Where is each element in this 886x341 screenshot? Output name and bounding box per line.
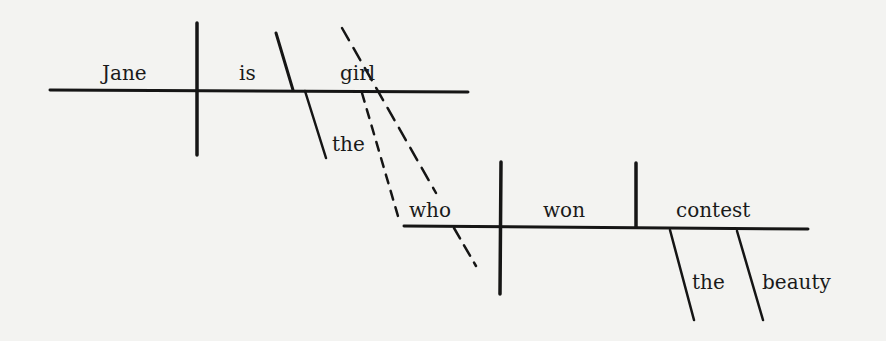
- dashed-connector-outer: [342, 28, 436, 193]
- relative-baseline: [404, 226, 808, 229]
- dashed-connector-inner: [362, 93, 400, 223]
- word-relative-verb-won: won: [543, 200, 585, 220]
- modifier-line-beauty: [737, 231, 763, 320]
- sentence-diagram: Jane is girl the who won contest the bea…: [0, 0, 886, 341]
- dashed-connector-lower: [454, 228, 476, 266]
- modifier-line-the-1: [305, 91, 326, 158]
- word-modifier-beauty: beauty: [762, 272, 831, 292]
- main-baseline: [50, 90, 468, 92]
- predicate-slant: [276, 33, 293, 90]
- word-predicate-girl: girl: [340, 63, 375, 83]
- relative-subject-verb-divider: [500, 162, 501, 294]
- word-relative-object-contest: contest: [676, 200, 750, 220]
- word-subject-jane: Jane: [102, 63, 147, 83]
- word-relative-subject-who: who: [409, 200, 451, 220]
- word-modifier-the-1: the: [332, 134, 365, 154]
- word-verb-is: is: [239, 63, 256, 83]
- modifier-line-the-2: [670, 230, 694, 320]
- word-modifier-the-2: the: [692, 272, 725, 292]
- diagram-lines: [0, 0, 886, 341]
